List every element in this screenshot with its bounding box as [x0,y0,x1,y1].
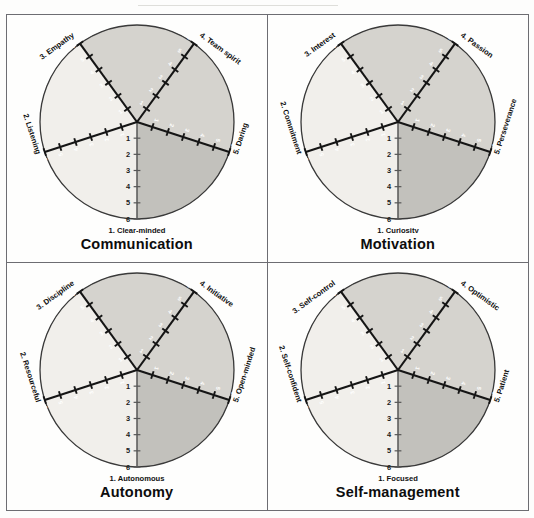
axis-tick-label: 6 [42,405,49,410]
radar-chart-autonomy: 1234561. Autonomous1234562. Resourceful1… [12,266,262,481]
chart-title-communication: Communication [7,236,267,252]
wheel-self-management: 1234561. Focused1234562. Self-confident1… [268,263,529,511]
chart-title-motivation: Motivation [268,236,529,252]
axis-tick-label: 1 [126,381,130,390]
axis-label-1: 1. Curiosity [377,226,419,233]
axis-tick-label: 3 [387,414,391,423]
axis-label-1: 1. Clear-minded [108,226,165,233]
axis-tick-label: 3 [126,414,130,423]
wheel-motivation: 1234561. Curiosity1234562. Commitment123… [268,15,529,262]
chart-cell-communication: 1234561. Clear-minded1234562. Listening1… [7,15,268,263]
axis-tick-label: 6 [42,157,49,162]
axis-tick-label: 5 [387,446,391,455]
radar-chart-self-management: 1234561. Focused1234562. Self-confident1… [273,266,523,481]
axis-tick-label: 6 [126,215,130,224]
axis-tick-label: 5 [126,198,130,207]
axis-tick-label: 5 [387,198,391,207]
wheel-autonomy: 1234561. Autonomous1234562. Resourceful1… [7,263,267,511]
chart-cell-self-management: 1234561. Focused1234562. Self-confident1… [268,263,529,511]
scan-artifact-rule [138,5,338,6]
chart-title-self-management: Self-management [268,484,529,500]
chart-cell-autonomy: 1234561. Autonomous1234562. Resourceful1… [7,263,268,511]
page-root: 1234561. Clear-minded1234562. Listening1… [0,0,534,518]
axis-tick-label: 6 [126,462,130,471]
axis-tick-label: 2 [387,150,391,159]
radar-chart-communication: 1234561. Clear-minded1234562. Listening1… [12,18,262,233]
axis-tick-label: 6 [303,157,310,162]
charts-grid: 1234561. Clear-minded1234562. Listening1… [6,14,529,511]
axis-label-2: 2. Commitment [278,100,304,155]
axis-tick-label: 6 [303,405,310,410]
axis-label-1: 1. Autonomous [109,474,164,481]
axis-tick-label: 6 [387,215,391,224]
axis-tick-label: 1 [387,134,391,143]
axis-tick-label: 6 [387,462,391,471]
wheel-communication: 1234561. Clear-minded1234562. Listening1… [7,15,267,262]
axis-label-2: 2. Self-confident [277,344,304,403]
chart-title-autonomy: Autonomy [7,484,267,500]
axis-tick-label: 1 [387,381,391,390]
axis-tick-label: 2 [387,397,391,406]
axis-tick-label: 5 [126,446,130,455]
axis-label-5: 5. Open-minded [231,345,257,403]
axis-tick-label: 1 [126,134,130,143]
axis-label-1: 1. Focused [378,474,418,481]
axis-tick-label: 2 [126,397,130,406]
axis-label-2: 2. Resourceful [18,350,43,403]
axis-tick-label: 2 [126,150,130,159]
chart-cell-motivation: 1234561. Curiosity1234562. Commitment123… [268,15,529,263]
axis-tick-label: 3 [126,166,130,175]
axis-tick-label: 3 [387,166,391,175]
radar-chart-motivation: 1234561. Curiosity1234562. Commitment123… [273,18,523,233]
axis-label-5: 5. Perseverance [492,98,518,156]
